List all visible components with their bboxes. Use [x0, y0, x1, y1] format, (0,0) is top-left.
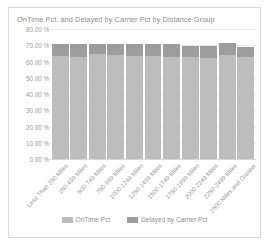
legend-item[interactable]: OnTime Pct — [62, 216, 111, 223]
bar-segment-ontime[interactable] — [107, 55, 124, 159]
bar-segment-delayed-by-carrier[interactable] — [126, 44, 143, 56]
bar-segment-delayed-by-carrier[interactable] — [89, 44, 106, 54]
y-axis-tick-label: 40.00 % — [26, 91, 49, 98]
x-axis: Less Than 250 Miles250-499 Miles500-749 … — [50, 160, 256, 218]
bar-column[interactable] — [126, 29, 143, 159]
y-axis-tick-label: 60.00 % — [26, 58, 49, 65]
bar-column[interactable] — [52, 29, 69, 159]
bar-segment-delayed-by-carrier[interactable] — [145, 44, 162, 56]
legend-label: Delayed by Carrier Pct — [141, 216, 207, 223]
bar-series-container — [50, 29, 256, 159]
legend-swatch-icon — [127, 217, 138, 223]
legend-swatch-icon — [62, 217, 73, 223]
bar-column[interactable] — [219, 29, 236, 159]
bar-segment-ontime[interactable] — [52, 56, 69, 159]
bar-column[interactable] — [237, 29, 254, 159]
bar-segment-ontime[interactable] — [163, 57, 180, 159]
bar-column[interactable] — [70, 29, 87, 159]
legend-label: OnTime Pct — [76, 216, 111, 223]
y-axis-tick-label: 0.00 % — [29, 156, 49, 163]
chart-legend: OnTime PctDelayed by Carrier Pct — [9, 216, 260, 223]
bar-segment-delayed-by-carrier[interactable] — [70, 44, 87, 57]
bar-segment-ontime[interactable] — [200, 58, 217, 159]
bar-column[interactable] — [107, 29, 124, 159]
bar-segment-delayed-by-carrier[interactable] — [107, 44, 124, 55]
bar-column[interactable] — [200, 29, 217, 159]
legend-item[interactable]: Delayed by Carrier Pct — [127, 216, 207, 223]
bar-segment-ontime[interactable] — [219, 55, 236, 159]
bar-segment-delayed-by-carrier[interactable] — [163, 44, 180, 56]
bar-segment-ontime[interactable] — [126, 56, 143, 159]
bar-column[interactable] — [182, 29, 199, 159]
y-axis-tick-label: 20.00 % — [26, 123, 49, 130]
bar-segment-ontime[interactable] — [70, 57, 87, 159]
bar-column[interactable] — [163, 29, 180, 159]
bar-segment-delayed-by-carrier[interactable] — [237, 47, 254, 58]
y-axis-tick-label: 30.00 % — [26, 107, 49, 114]
bar-segment-delayed-by-carrier[interactable] — [219, 43, 236, 55]
bar-segment-ontime[interactable] — [182, 57, 199, 159]
chart-card: OnTime Pct. and Delayed by Carrier Pct b… — [8, 7, 261, 238]
y-axis-tick-label: 70.00 % — [26, 42, 49, 49]
y-axis-tick-label: 80.00 % — [26, 26, 49, 33]
plot-area: 80.00 %70.00 %60.00 %50.00 %40.00 %30.00… — [9, 8, 262, 239]
bar-segment-delayed-by-carrier[interactable] — [182, 46, 199, 57]
y-axis-tick-label: 50.00 % — [26, 74, 49, 81]
bar-segment-ontime[interactable] — [145, 56, 162, 159]
y-axis: 80.00 %70.00 %60.00 %50.00 %40.00 %30.00… — [15, 29, 49, 159]
bar-segment-ontime[interactable] — [237, 57, 254, 159]
bar-column[interactable] — [145, 29, 162, 159]
bar-column[interactable] — [89, 29, 106, 159]
bar-segment-delayed-by-carrier[interactable] — [200, 46, 217, 58]
bar-segment-ontime[interactable] — [89, 54, 106, 159]
bar-segment-delayed-by-carrier[interactable] — [52, 44, 69, 56]
y-axis-tick-label: 10.00 % — [26, 139, 49, 146]
